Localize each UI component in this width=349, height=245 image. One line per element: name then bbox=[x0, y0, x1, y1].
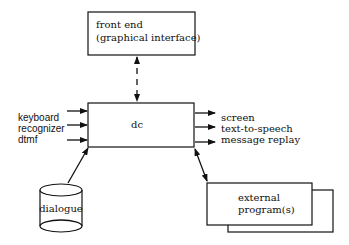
front-end-label-line1: front end bbox=[96, 19, 143, 30]
architecture-diagram: front end (graphical interface) dc keybo… bbox=[0, 0, 349, 245]
dialogue-database: dialogue bbox=[39, 184, 83, 232]
dialogue-label: dialogue bbox=[39, 203, 83, 214]
output-label-message-replay: message replay bbox=[221, 134, 300, 145]
input-label-recognizer: recognizer bbox=[18, 123, 65, 134]
input-label-dtmf: dtmf bbox=[18, 134, 38, 145]
external-programs-node: external program(s) bbox=[207, 183, 333, 232]
dc-external-arrow bbox=[195, 149, 207, 181]
output-labels: screen text-to-speech message replay bbox=[221, 112, 300, 145]
output-label-screen: screen bbox=[221, 112, 255, 123]
dc-node: dc bbox=[88, 103, 194, 147]
external-label-line1: external bbox=[238, 192, 280, 203]
front-end-node: front end (graphical interface) bbox=[88, 12, 201, 55]
input-label-keyboard: keyboard bbox=[18, 112, 59, 123]
external-label-line2: program(s) bbox=[238, 204, 295, 215]
front-end-label-line2: (graphical interface) bbox=[96, 32, 201, 43]
cylinder-top bbox=[40, 184, 82, 196]
output-arrows bbox=[195, 113, 215, 142]
dc-label: dc bbox=[131, 119, 143, 130]
output-label-text-to-speech: text-to-speech bbox=[221, 123, 293, 134]
input-labels: keyboard recognizer dtmf bbox=[18, 112, 65, 145]
input-arrows bbox=[67, 111, 87, 140]
dialogue-dc-arrow bbox=[68, 148, 88, 183]
